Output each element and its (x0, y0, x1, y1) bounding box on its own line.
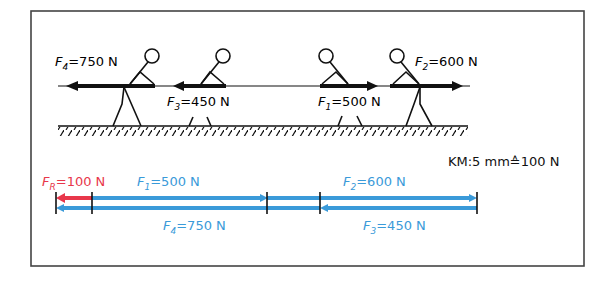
ground (58, 126, 468, 136)
scale-label: KM:5 mm≙100 N (448, 154, 559, 169)
tug-of-war-force-diagram: F4=750 N F3=450 N F1=500 N F2=600 N KM:5… (0, 0, 615, 286)
figure-frame (31, 11, 584, 266)
